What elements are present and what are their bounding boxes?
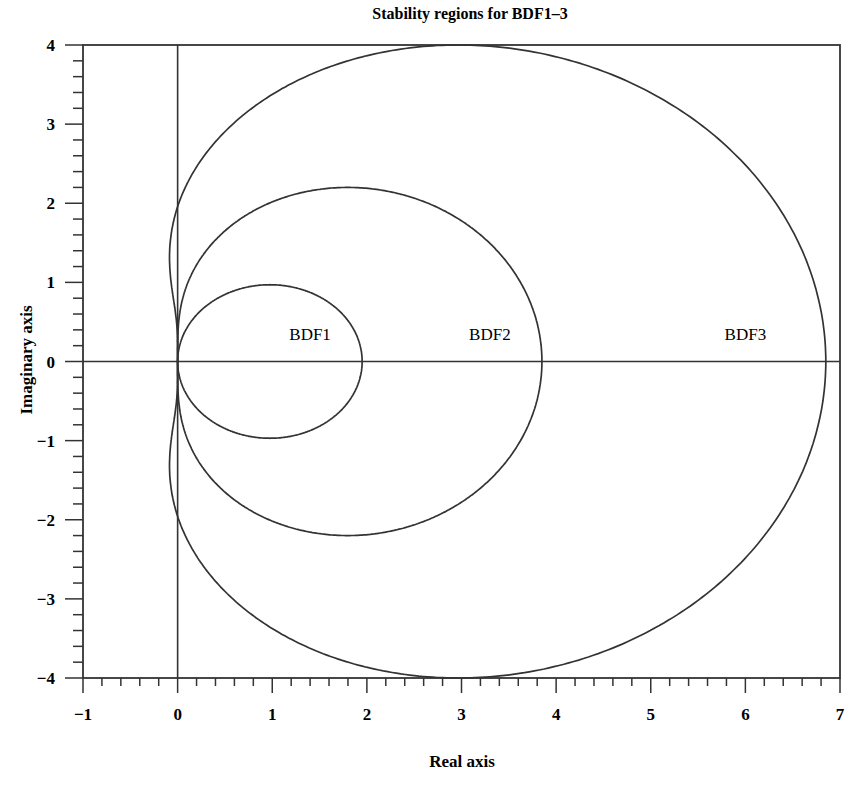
y-tick-label: −2	[37, 511, 55, 530]
y-tick-label: −3	[37, 590, 55, 609]
y-tick-label: 2	[47, 194, 56, 213]
label-bdf1: BDF1	[289, 325, 331, 344]
reference-axes	[83, 45, 840, 678]
label-bdf2: BDF2	[469, 325, 511, 344]
x-tick-label: 7	[836, 705, 845, 724]
y-axis-label: Imaginary axis	[17, 305, 36, 414]
y-tick-label: −4	[37, 669, 56, 688]
y-tick-label: 1	[47, 273, 56, 292]
axis-ticks	[65, 45, 840, 693]
x-tick-label: 3	[457, 705, 466, 724]
label-bdf3: BDF3	[725, 325, 767, 344]
curve-labels: BDF1BDF2BDF3	[289, 325, 766, 344]
chart-title: Stability regions for BDF1–3	[372, 5, 567, 23]
y-tick-label: 4	[47, 36, 56, 55]
x-tick-label: −1	[74, 705, 92, 724]
stability-chart: Stability regions for BDF1–3 −1012345674…	[0, 0, 857, 791]
x-tick-label: 0	[173, 705, 182, 724]
x-tick-label: 4	[552, 705, 561, 724]
x-tick-label: 2	[363, 705, 372, 724]
y-tick-label: −1	[37, 432, 55, 451]
axis-tick-labels: −10123456743210−1−2−3−4	[37, 36, 845, 724]
x-axis-label: Real axis	[429, 752, 495, 771]
x-tick-label: 5	[647, 705, 656, 724]
x-tick-label: 6	[741, 705, 750, 724]
y-tick-label: 0	[47, 353, 56, 372]
x-tick-label: 1	[268, 705, 277, 724]
y-tick-label: 3	[47, 115, 56, 134]
